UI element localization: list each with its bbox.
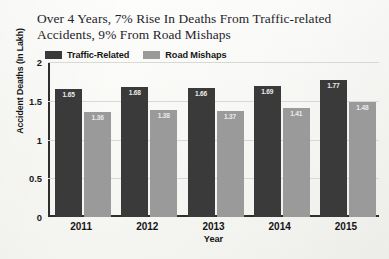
bar-value-label: 1.48 bbox=[349, 104, 376, 111]
legend-swatch-road-mishaps bbox=[143, 51, 160, 59]
bar-value-label: 1.66 bbox=[188, 90, 215, 97]
x-axis-ticks: 20112012201320142015 bbox=[48, 221, 379, 235]
x-axis-tick-label: 2015 bbox=[335, 221, 357, 232]
legend-swatch-traffic-related bbox=[45, 51, 62, 59]
x-axis-tick-label: 2013 bbox=[202, 221, 224, 232]
bar-road-mishaps[interactable]: 1.37 bbox=[217, 111, 244, 217]
legend-item-traffic-related[interactable]: Traffic-Related bbox=[45, 50, 129, 60]
bar-group: 1.771.48 bbox=[320, 80, 376, 217]
bar-road-mishaps[interactable]: 1.48 bbox=[349, 102, 376, 217]
plot-area: 1.651.361.681.381.661.371.691.411.771.48 bbox=[48, 62, 379, 217]
y-axis-tick-label: 0 bbox=[37, 212, 42, 223]
gridline bbox=[48, 62, 379, 63]
bar-road-mishaps[interactable]: 1.38 bbox=[150, 110, 177, 217]
legend-item-road-mishaps[interactable]: Road Mishaps bbox=[143, 50, 226, 60]
bar-value-label: 1.41 bbox=[283, 110, 310, 117]
bar-group: 1.691.41 bbox=[254, 86, 310, 217]
bar-value-label: 1.37 bbox=[217, 113, 244, 120]
y-axis-tick-label: 2 bbox=[37, 57, 42, 68]
bar-group: 1.681.38 bbox=[121, 87, 177, 217]
bar-group: 1.651.36 bbox=[55, 89, 111, 217]
x-axis-title: Year bbox=[48, 234, 379, 244]
bar-traffic-related[interactable]: 1.68 bbox=[121, 87, 148, 217]
bar-value-label: 1.65 bbox=[55, 91, 82, 98]
x-axis-tick-label: 2011 bbox=[70, 221, 92, 232]
y-axis-ticks: 00.511.52 bbox=[0, 62, 46, 217]
chart-screenshot: Over 4 Years, 7% Rise In Deaths From Tra… bbox=[0, 0, 389, 259]
bar-group: 1.661.37 bbox=[188, 88, 244, 217]
bar-value-label: 1.77 bbox=[320, 82, 347, 89]
bar-road-mishaps[interactable]: 1.41 bbox=[283, 108, 310, 217]
chart-title: Over 4 Years, 7% Rise In Deaths From Tra… bbox=[37, 11, 367, 42]
bar-traffic-related[interactable]: 1.77 bbox=[320, 80, 347, 217]
chart-legend: Traffic-Related Road Mishaps bbox=[45, 50, 226, 60]
x-axis-tick-label: 2014 bbox=[269, 221, 291, 232]
bar-value-label: 1.69 bbox=[254, 88, 281, 95]
bar-value-label: 1.68 bbox=[121, 89, 148, 96]
bar-traffic-related[interactable]: 1.65 bbox=[55, 89, 82, 217]
bar-value-label: 1.36 bbox=[84, 114, 111, 121]
bar-traffic-related[interactable]: 1.66 bbox=[188, 88, 215, 217]
y-axis-tick-label: 0.5 bbox=[29, 173, 42, 184]
bar-value-label: 1.38 bbox=[150, 112, 177, 119]
legend-label-traffic-related: Traffic-Related bbox=[67, 50, 129, 60]
x-axis-tick-label: 2012 bbox=[136, 221, 158, 232]
legend-label-road-mishaps: Road Mishaps bbox=[165, 50, 226, 60]
chart-title-line-1: Over 4 Years, 7% Rise In Deaths From Tra… bbox=[37, 11, 367, 27]
bar-traffic-related[interactable]: 1.69 bbox=[254, 86, 281, 217]
chart-title-line-2: Accidents, 9% From Road Mishaps bbox=[37, 27, 367, 43]
y-axis-tick-label: 1 bbox=[37, 134, 42, 145]
y-axis-tick-label: 1.5 bbox=[29, 95, 42, 106]
bar-road-mishaps[interactable]: 1.36 bbox=[84, 112, 111, 217]
